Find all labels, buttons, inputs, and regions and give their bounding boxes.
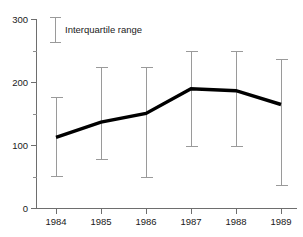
y-tick-label-0: 0 (23, 203, 28, 214)
y-tick-label-300: 300 (12, 14, 28, 25)
x-tick-label-1988: 1988 (225, 216, 246, 227)
y-tick-label-100: 100 (12, 140, 28, 151)
x-tick-label-1984: 1984 (45, 216, 66, 227)
x-tick-label-1987: 1987 (180, 216, 201, 227)
x-tick-label-1985: 1985 (90, 216, 111, 227)
chart-container: 300 200 100 0 198419851986198719881989 I… (0, 0, 303, 237)
x-tick-label-1986: 1986 (135, 216, 156, 227)
line-chart-with-error-bars: 300 200 100 0 198419851986198719881989 I… (0, 0, 303, 237)
x-tick-label-1989: 1989 (270, 216, 291, 227)
chart-background (0, 0, 303, 237)
y-tick-label-200: 200 (12, 77, 28, 88)
legend-label-interquartile-range: Interquartile range (65, 24, 142, 35)
